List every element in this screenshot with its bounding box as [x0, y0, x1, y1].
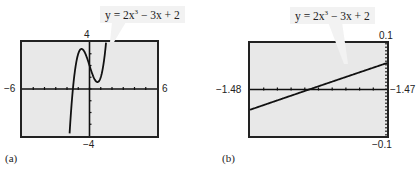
eq-prefix: y = 2x [295, 10, 325, 22]
equation-label-b: y = 2x3 − 3x + 2 [290, 7, 375, 24]
x-min-label-b: −1.48 [216, 84, 241, 95]
callout-pointer-a [110, 22, 126, 42]
y-min-label-b: −0.1 [372, 139, 392, 150]
plots-svg [0, 0, 416, 172]
y-max-label-b: 0.1 [379, 30, 393, 41]
caption-b: (b) [222, 152, 235, 164]
eq-suffix: − 3x + 2 [328, 10, 370, 22]
x-max-label-b: −1.47 [390, 84, 415, 95]
